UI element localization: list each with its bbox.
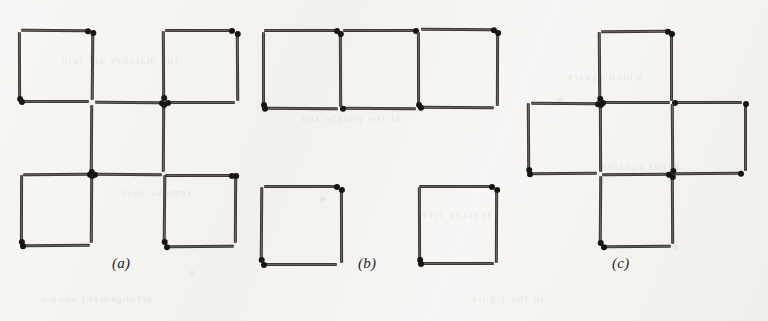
matchstick-body xyxy=(234,175,237,243)
matchstick xyxy=(418,261,496,267)
matchstick xyxy=(261,184,339,190)
matchstick xyxy=(340,28,418,34)
matchstick-head xyxy=(259,257,265,263)
matchstick-body xyxy=(165,174,233,177)
matchstick xyxy=(416,185,422,263)
matchstick xyxy=(417,184,495,190)
matchstick-body xyxy=(674,172,742,175)
matchstick-head xyxy=(161,95,167,101)
matchstick xyxy=(19,173,25,245)
matchstick-body xyxy=(599,104,602,172)
matchstick-body xyxy=(263,185,337,188)
matchstick-head xyxy=(670,174,676,180)
matchstick xyxy=(597,30,604,102)
figure-page: the matches are laidof the puzzle andwhi… xyxy=(0,0,768,321)
matchstick xyxy=(235,31,242,103)
matchstick-body xyxy=(95,101,163,104)
matchstick-body xyxy=(599,176,603,244)
matchstick xyxy=(601,243,673,249)
matchstick xyxy=(19,28,91,34)
matchstick-head xyxy=(91,30,97,36)
matchstick-body xyxy=(90,175,93,243)
matchstick xyxy=(338,31,344,109)
matchstick-body xyxy=(421,28,495,31)
matchstick xyxy=(161,29,167,101)
matchstick xyxy=(93,100,165,106)
matchstick xyxy=(672,100,744,106)
matchstick-body xyxy=(94,173,162,177)
matchstick-head xyxy=(598,102,604,108)
matchstick-body xyxy=(21,100,89,103)
matchstick-body xyxy=(236,33,239,101)
matchstick xyxy=(598,102,604,174)
matchstick-head xyxy=(161,102,167,108)
matchstick xyxy=(600,172,672,179)
matchstick-head xyxy=(669,31,675,37)
matchstick-head xyxy=(19,239,25,245)
matchstick-body xyxy=(264,29,338,32)
matchstick xyxy=(21,172,93,178)
matchstick-body xyxy=(21,29,89,32)
matchstick-body xyxy=(417,187,420,261)
matchstick-body xyxy=(419,185,493,188)
matchstick-body xyxy=(165,28,233,31)
matchstick-body xyxy=(20,175,23,243)
matchstick xyxy=(20,243,92,249)
paper-bleed-text: in the figure xyxy=(470,292,543,304)
matchstick-body xyxy=(22,244,90,247)
matchstick-head xyxy=(598,240,604,246)
matchstick xyxy=(598,174,605,246)
matchstick xyxy=(495,30,501,108)
matchstick xyxy=(233,173,239,245)
matchstick-body xyxy=(167,101,235,104)
matchstick-body xyxy=(23,173,91,176)
matchstick-body xyxy=(260,187,264,261)
matchstick-head xyxy=(495,30,501,36)
matchstick-body xyxy=(598,32,602,100)
matchstick-body xyxy=(671,104,675,172)
matchstick-body xyxy=(531,102,599,106)
matchstick-head xyxy=(90,173,96,179)
matchstick-body xyxy=(603,244,671,247)
matchstick xyxy=(416,30,422,108)
matchstick xyxy=(670,174,676,246)
matchstick xyxy=(669,31,675,103)
matchstick xyxy=(339,187,345,265)
matchstick-head xyxy=(494,187,500,193)
matchstick xyxy=(92,172,164,179)
figure-caption-a: (a) xyxy=(112,255,130,272)
matchstick-body xyxy=(162,31,165,99)
matchstick-body xyxy=(163,175,167,243)
matchstick-body xyxy=(91,32,95,100)
matchstick xyxy=(161,102,167,174)
matchstick-body xyxy=(495,189,498,263)
matchstick xyxy=(17,30,23,102)
matchstick-body xyxy=(529,172,597,175)
matchstick-body xyxy=(263,263,337,266)
matchstick xyxy=(19,99,91,105)
matchstick xyxy=(494,187,500,265)
matchstick xyxy=(163,27,235,33)
paper-bleed-text: leaving five xyxy=(420,208,490,220)
matchstick-head xyxy=(339,187,345,193)
matchstick xyxy=(743,101,749,173)
matchstick-body xyxy=(166,245,234,248)
matchstick-body xyxy=(601,30,669,33)
paper-bleed-text: which square xyxy=(566,70,642,82)
matchstick xyxy=(340,105,418,112)
matchstick xyxy=(670,102,677,174)
matchstick-body xyxy=(342,29,416,32)
matchstick-body xyxy=(340,189,343,263)
matchstick-body xyxy=(420,106,494,109)
matchstick-body xyxy=(670,33,673,101)
matchstick xyxy=(164,244,236,250)
matchstick xyxy=(90,30,97,102)
paper-bleed-text: equal squares xyxy=(600,160,679,172)
matchstick xyxy=(527,171,599,177)
matchstick-body xyxy=(671,176,674,244)
matchstick xyxy=(162,173,169,245)
matchstick xyxy=(672,171,744,177)
matchstick-body xyxy=(602,173,670,177)
matchstick-head xyxy=(416,102,422,108)
matchstick-head xyxy=(162,239,168,245)
